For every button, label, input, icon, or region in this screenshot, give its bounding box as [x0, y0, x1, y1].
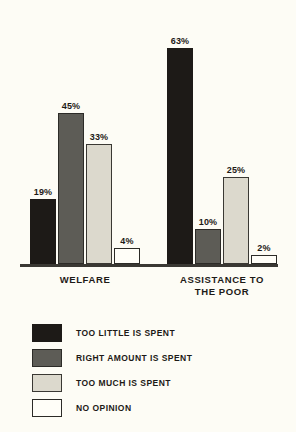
- legend-item-too-much: TOO MUCH IS SPENT: [32, 374, 262, 392]
- bar-welfare-no-opinion: [114, 248, 140, 264]
- baseline-axis: [20, 264, 278, 267]
- legend-label-no-opinion: NO OPINION: [76, 403, 132, 413]
- bar-value-welfare-too-little: 19%: [30, 187, 56, 197]
- legend: TOO LITTLE IS SPENT RIGHT AMOUNT IS SPEN…: [32, 324, 262, 424]
- group-label-welfare: WELFARE: [25, 274, 145, 286]
- bar-assistance-too-little: [167, 48, 193, 264]
- bar-value-assistance-too-little: 63%: [167, 36, 193, 46]
- legend-swatch-icon-no-opinion: [32, 399, 62, 417]
- legend-label-right-amount: RIGHT AMOUNT IS SPENT: [76, 353, 192, 363]
- bar-value-assistance-no-opinion: 2%: [251, 243, 277, 253]
- bar-assistance-too-much: [223, 177, 249, 264]
- bar-welfare-too-little: [30, 199, 56, 264]
- legend-swatch-icon-too-much: [32, 374, 62, 392]
- bar-assistance-right-amount: [195, 229, 221, 264]
- legend-label-too-much: TOO MUCH IS SPENT: [76, 378, 171, 388]
- plot-area: 19% 45% 33% 4% 63% 10% 25% 2% WELFARE AS…: [0, 0, 296, 270]
- bars-container: 19% 45% 33% 4% 63% 10% 25% 2%: [0, 0, 296, 264]
- bar-value-welfare-right-amount: 45%: [58, 101, 84, 111]
- group-label-assistance-to-the-poor: ASSISTANCE TO THE POOR: [162, 274, 282, 298]
- legend-swatch-icon-right-amount: [32, 349, 62, 367]
- bar-value-assistance-right-amount: 10%: [195, 217, 221, 227]
- bar-value-welfare-too-much: 33%: [86, 132, 112, 142]
- legend-item-too-little: TOO LITTLE IS SPENT: [32, 324, 262, 342]
- legend-label-too-little: TOO LITTLE IS SPENT: [76, 328, 175, 338]
- bar-chart: 19% 45% 33% 4% 63% 10% 25% 2% WELFARE AS…: [0, 0, 296, 432]
- legend-item-right-amount: RIGHT AMOUNT IS SPENT: [32, 349, 262, 367]
- bar-assistance-no-opinion: [251, 255, 277, 264]
- legend-swatch-icon-too-little: [32, 324, 62, 342]
- bar-welfare-right-amount: [58, 113, 84, 264]
- bar-welfare-too-much: [86, 144, 112, 264]
- legend-item-no-opinion: NO OPINION: [32, 399, 262, 417]
- bar-value-assistance-too-much: 25%: [223, 165, 249, 175]
- bar-value-welfare-no-opinion: 4%: [114, 236, 140, 246]
